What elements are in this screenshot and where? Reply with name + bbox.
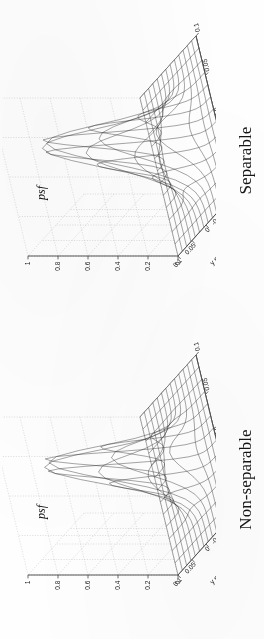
surface-layer: [37, 36, 216, 256]
surface-fill: [37, 36, 216, 256]
panel-separable: -0.1-0.0500.050.1x milliradians-0.1-0.05…: [0, 1, 264, 320]
z-tick-label: 0.6: [84, 261, 91, 270]
surface-plot-non-separable: -0.1-0.0500.050.1x milliradians-0.1-0.05…: [2, 327, 216, 633]
z-tick-label: 0: [174, 580, 181, 584]
figure-page: -0.1-0.0500.050.1x milliradians-0.1-0.05…: [0, 0, 264, 639]
panel-non-separable: -0.1-0.0500.050.1x milliradians-0.1-0.05…: [0, 320, 264, 639]
z-tick-label: 1: [24, 580, 31, 584]
x-tick-label: 0.05: [201, 58, 211, 72]
z-tick-label: 1: [24, 261, 31, 265]
panel-title-non-separable: Non-separable: [236, 320, 256, 639]
surface-canvas: -0.1-0.0500.050.1x milliradians-0.1-0.05…: [2, 327, 216, 633]
z-tick-label: 0.4: [114, 580, 121, 589]
psf-axis-label-non-separable: psf: [34, 505, 49, 519]
z-tick-label: 0.4: [114, 261, 121, 270]
z-tick-label: 0.8: [54, 580, 61, 589]
surface-layer: [37, 355, 216, 575]
surface-fill: [37, 355, 216, 575]
x-tick-label: 0.1: [192, 341, 201, 352]
z-tick-label: 0.6: [84, 580, 91, 589]
z-tick-label: 0.2: [144, 261, 151, 270]
x-tick-label: 0.05: [201, 377, 211, 391]
y-axis-title: y milliradians: [208, 232, 216, 267]
z-tick-label: 0.8: [54, 261, 61, 270]
z-tick-label: 0.2: [144, 580, 151, 589]
surface-plot-separable: -0.1-0.0500.050.1x milliradians-0.1-0.05…: [2, 8, 216, 314]
x-tick-label: 0.1: [192, 22, 201, 33]
z-tick-label: 0: [174, 261, 181, 265]
surface-canvas: -0.1-0.0500.050.1x milliradians-0.1-0.05…: [2, 8, 216, 314]
psf-axis-label-separable: psf: [34, 186, 49, 200]
rotated-figure-frame: -0.1-0.0500.050.1x milliradians-0.1-0.05…: [0, 0, 264, 639]
y-axis-title: y milliradians: [208, 551, 216, 586]
panel-row: -0.1-0.0500.050.1x milliradians-0.1-0.05…: [0, 0, 264, 639]
panel-title-separable: Separable: [236, 1, 256, 320]
